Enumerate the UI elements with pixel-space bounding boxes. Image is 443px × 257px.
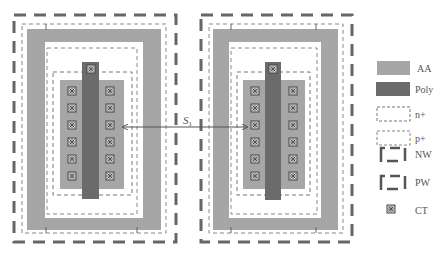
legend-item-ct: CT (387, 205, 428, 216)
legend-label: n+ (415, 109, 426, 120)
spacing-label: S1 (183, 114, 193, 128)
pplus-swatch-icon (377, 131, 410, 145)
legend: AA Poly n+ p+ NW (376, 61, 433, 216)
legend-label: Poly (415, 84, 433, 95)
legend-item-pplus: p+ (377, 131, 426, 145)
contact-icon (387, 205, 395, 213)
poly-swatch-icon (376, 82, 410, 96)
legend-item-pw: PW (381, 176, 431, 190)
poly-gate (265, 62, 281, 200)
legend-item-poly: Poly (376, 82, 433, 96)
legend-label: NW (415, 149, 432, 160)
nw-swatch-icon (381, 148, 405, 162)
poly-gate (82, 62, 99, 199)
right-transistor (201, 15, 352, 242)
legend-item-aa: AA (377, 61, 432, 75)
layout-diagram: S1 AA Poly n+ p+ NW (0, 0, 443, 257)
legend-label: p+ (415, 133, 426, 144)
nplus-swatch-icon (377, 107, 410, 121)
legend-label: AA (417, 63, 432, 74)
legend-label: CT (415, 205, 428, 216)
left-transistor (14, 15, 176, 242)
legend-label: PW (415, 177, 431, 188)
legend-item-nplus: n+ (377, 107, 426, 121)
aa-swatch-icon (377, 61, 410, 75)
legend-item-nw: NW (381, 148, 432, 162)
pw-swatch-icon (381, 176, 405, 190)
